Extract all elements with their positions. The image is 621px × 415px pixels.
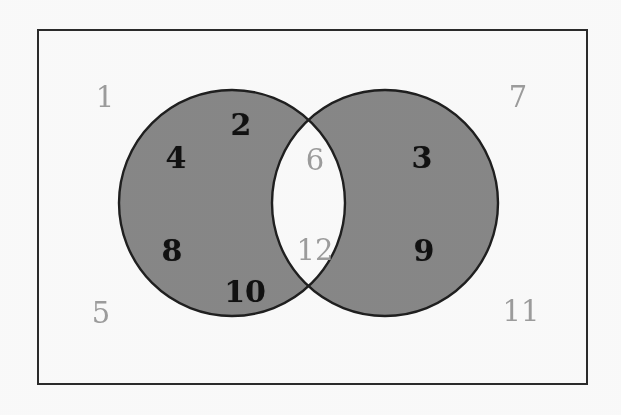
label-intersection-12: 12 — [297, 236, 334, 265]
venn-diagram: 1 7 5 11 2 4 8 10 3 9 6 12 — [0, 0, 621, 415]
label-outside-7: 7 — [509, 83, 527, 112]
venn-circles — [0, 0, 621, 415]
label-left-8: 8 — [162, 236, 183, 266]
label-outside-5: 5 — [92, 299, 110, 328]
label-right-9: 9 — [414, 236, 435, 266]
label-right-3: 3 — [412, 143, 433, 173]
label-outside-1: 1 — [96, 83, 114, 112]
label-left-4: 4 — [166, 143, 187, 173]
label-outside-11: 11 — [503, 297, 540, 326]
label-left-10: 10 — [224, 277, 266, 307]
label-intersection-6: 6 — [306, 146, 324, 175]
label-left-2: 2 — [231, 110, 252, 140]
